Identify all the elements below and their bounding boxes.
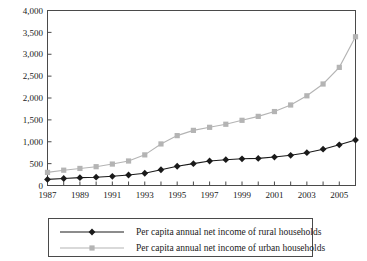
data-point-marker: [126, 158, 131, 163]
x-tick-label: 1999: [233, 190, 252, 200]
data-point-marker: [45, 170, 50, 175]
data-point-marker: [77, 174, 84, 181]
data-point-marker: [190, 160, 197, 167]
x-tick-label: 1997: [201, 190, 220, 200]
data-point-marker: [125, 172, 132, 179]
y-tick-label: 1,000: [23, 137, 44, 147]
legend-label-0: Per capita annual net income of rural ho…: [136, 227, 322, 237]
series-markers-urban: [45, 34, 358, 175]
x-tick-label: 1989: [71, 190, 90, 200]
legend-marker-1: [89, 245, 94, 250]
data-point-marker: [239, 155, 246, 162]
x-tick-label: 2001: [265, 190, 283, 200]
series-markers-rural: [44, 137, 359, 183]
data-point-marker: [77, 166, 82, 171]
data-point-marker: [353, 34, 358, 39]
data-point-marker: [158, 166, 165, 173]
data-point-marker: [110, 161, 115, 166]
y-axis-tick-labels: 05001,0001,5002,0002,5003,0003,5004,000: [23, 6, 44, 191]
y-tick-label: 500: [30, 159, 44, 169]
x-axis-tick-labels: 1987198919911993199519971999200120032005: [39, 190, 349, 200]
legend-label-1: Per capita annual net income of urban ho…: [136, 243, 325, 253]
data-point-marker: [352, 137, 359, 144]
x-tick-label: 2005: [330, 190, 349, 200]
data-point-marker: [191, 128, 196, 133]
data-point-marker: [336, 141, 343, 148]
data-point-marker: [44, 176, 51, 183]
data-point-marker: [287, 152, 294, 159]
series-line-rural: [48, 140, 356, 179]
data-point-marker: [60, 175, 67, 182]
data-point-marker: [158, 141, 163, 146]
chart-legend: Per capita annual net income of rural ho…: [49, 219, 326, 257]
data-point-marker: [109, 173, 116, 180]
data-point-marker: [304, 93, 309, 98]
x-tick-label: 1987: [39, 190, 58, 200]
y-tick-label: 2,500: [23, 71, 44, 81]
y-tick-label: 4,000: [23, 6, 44, 16]
x-tick-label: 2003: [298, 190, 317, 200]
y-tick-label: 3,000: [23, 49, 44, 59]
data-point-marker: [303, 149, 310, 156]
data-point-marker: [94, 164, 99, 169]
data-point-marker: [175, 133, 180, 138]
y-tick-label: 1,500: [23, 115, 44, 125]
data-point-marker: [142, 152, 147, 157]
y-tick-label: 2,000: [23, 93, 44, 103]
data-point-marker: [271, 154, 278, 161]
data-point-marker: [93, 174, 100, 181]
data-point-marker: [256, 114, 261, 119]
line-chart: 05001,0001,5002,0002,5003,0003,5004,000 …: [0, 0, 367, 261]
data-point-marker: [61, 168, 66, 173]
data-point-marker: [288, 102, 293, 107]
data-point-marker: [223, 122, 228, 127]
data-point-marker: [174, 163, 181, 170]
data-point-marker: [320, 146, 327, 153]
x-axis-ticks: [48, 182, 356, 186]
data-point-marker: [206, 158, 213, 165]
chart-figure: 05001,0001,5002,0002,5003,0003,5004,000 …: [0, 0, 367, 261]
data-point-marker: [337, 65, 342, 70]
data-point-marker: [207, 125, 212, 130]
data-point-marker: [320, 81, 325, 86]
data-point-marker: [239, 118, 244, 123]
data-point-marker: [272, 109, 277, 114]
data-point-marker: [141, 170, 148, 177]
data-point-marker: [255, 155, 262, 162]
x-tick-label: 1993: [136, 190, 155, 200]
data-point-marker: [222, 156, 229, 163]
x-tick-label: 1991: [103, 190, 121, 200]
y-tick-label: 3,500: [23, 28, 44, 38]
x-tick-label: 1995: [168, 190, 187, 200]
y-axis-ticks: [48, 11, 52, 186]
